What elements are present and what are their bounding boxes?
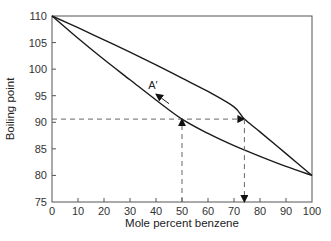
vapor-curve	[52, 16, 312, 175]
curves	[52, 16, 312, 175]
y-tick-label: 100	[29, 63, 47, 75]
y-tick-label: 110	[29, 10, 47, 22]
x-tick-label: 50	[176, 205, 188, 217]
x-tick-label: 0	[49, 205, 55, 217]
x-tick-label: 60	[202, 205, 214, 217]
x-tick-label: 70	[228, 205, 240, 217]
boiling-point-chart: 0102030405060708090100758085909510010511…	[0, 0, 331, 241]
y-axis-label: Boiling point	[4, 77, 16, 140]
x-tick-label: 20	[98, 205, 110, 217]
y-tick-label: 85	[35, 143, 47, 155]
x-tick-label: 90	[280, 205, 292, 217]
x-tick-label: 30	[124, 205, 136, 217]
x-tick-label: 40	[150, 205, 162, 217]
y-tick-label: 80	[35, 169, 47, 181]
x-tick-label: 80	[254, 205, 266, 217]
x-tick-label: 100	[303, 205, 321, 217]
liquid-curve	[52, 16, 312, 175]
x-tick-label: 10	[72, 205, 84, 217]
annotation-label: A′	[148, 79, 157, 91]
y-tick-label: 105	[29, 37, 47, 49]
x-axis-label: Mole percent benzene	[125, 217, 239, 229]
y-tick-label: 75	[35, 196, 47, 208]
annotations: A′	[52, 79, 244, 202]
y-tick-label: 95	[35, 90, 47, 102]
y-tick-label: 90	[35, 116, 47, 128]
